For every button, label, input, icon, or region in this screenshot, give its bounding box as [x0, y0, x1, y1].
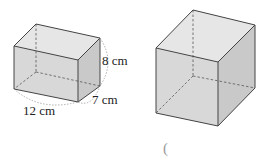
width-label: 12 cm: [23, 104, 55, 117]
diagram-canvas: [0, 0, 265, 163]
height-label: 8 cm: [102, 54, 128, 67]
depth-label: 7 cm: [92, 93, 118, 106]
answer-blank-paren: (: [163, 141, 168, 156]
cube: [156, 10, 255, 126]
